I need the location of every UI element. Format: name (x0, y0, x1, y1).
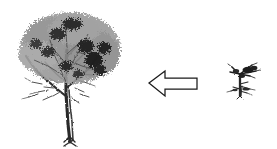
tree-canopy-group (8, 4, 133, 99)
diagram-canvas (0, 0, 277, 149)
sapling-illustration (226, 58, 262, 102)
mature-tree-svg (8, 4, 133, 146)
left-block-arrow-svg (146, 66, 200, 100)
sapling-svg (226, 58, 262, 102)
arrow-shape (149, 71, 197, 96)
sapling-strokes (227, 63, 260, 99)
mature-tree-illustration (8, 4, 133, 146)
left-block-arrow (146, 66, 200, 100)
